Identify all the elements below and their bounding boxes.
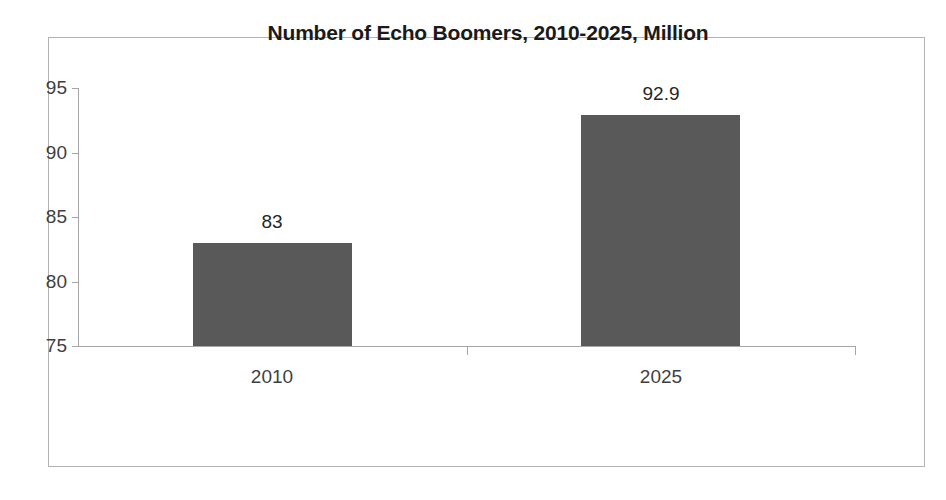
y-axis-tick-label: 80	[46, 271, 67, 293]
bar-value-label: 83	[261, 211, 282, 233]
bar	[193, 243, 352, 346]
x-axis-tick-mark	[855, 346, 856, 355]
chart-figure: Number of Echo Boomers, 2010-2025, Milli…	[0, 0, 946, 500]
x-axis-category-label: 2025	[640, 366, 682, 388]
y-axis-line	[78, 88, 79, 346]
bar-value-label: 92.9	[643, 83, 680, 105]
y-axis-tick-mark	[72, 88, 78, 89]
bar	[581, 115, 740, 346]
y-axis-tick-mark	[72, 153, 78, 154]
y-axis-tick-label: 95	[46, 77, 67, 99]
x-axis-tick-mark	[467, 346, 468, 355]
y-axis-tick-mark	[72, 282, 78, 283]
y-axis-tick-label: 90	[46, 142, 67, 164]
chart-title: Number of Echo Boomers, 2010-2025, Milli…	[78, 21, 898, 45]
y-axis-tick-mark	[72, 346, 78, 347]
x-axis-category-label: 2010	[251, 366, 293, 388]
y-axis-tick-label: 85	[46, 206, 67, 228]
plot-area: 7580859095 8392.9 20102025	[78, 88, 855, 346]
y-axis-tick-label: 75	[46, 335, 67, 357]
y-axis-tick-mark	[72, 217, 78, 218]
